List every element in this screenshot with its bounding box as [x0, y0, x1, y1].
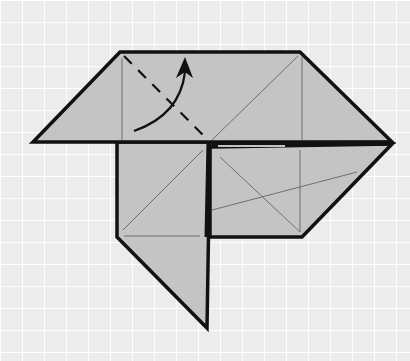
lower-left-flap [117, 142, 210, 328]
lower-right-flap [210, 144, 392, 237]
layer-edge [212, 143, 392, 144]
diagram-canvas: Valley fold the top-left corner up along… [0, 0, 410, 361]
center-vertical-edge [207, 142, 209, 237]
top-trapezoid-layer [33, 52, 392, 142]
origami-diagram [0, 0, 410, 361]
